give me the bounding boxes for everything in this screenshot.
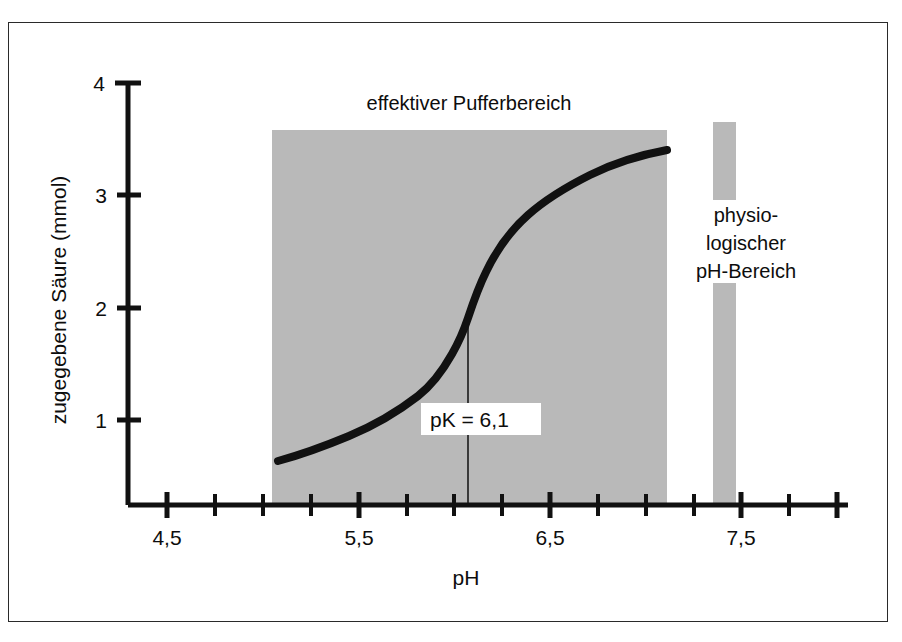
y-tick-label-1: 1 — [95, 409, 107, 432]
x-tick-label-7-5: 7,5 — [726, 526, 755, 549]
figure-page: 4 3 2 1 zugegebene Säure (mmol) 4,5 5,5 — [0, 0, 902, 642]
physiological-range-band-lower — [713, 283, 736, 505]
pk-label-text: pK = 6,1 — [430, 408, 509, 431]
y-tick-label-3: 3 — [95, 184, 107, 207]
x-tick-label-5-5: 5,5 — [344, 526, 373, 549]
y-tick-label-4: 4 — [93, 72, 105, 95]
x-tick-label-6-5: 6,5 — [535, 526, 564, 549]
y-tick-label-2: 2 — [95, 297, 107, 320]
physiological-range-label-line1: physio- — [714, 204, 778, 226]
ph-titration-chart: 4 3 2 1 zugegebene Säure (mmol) 4,5 5,5 — [0, 0, 902, 642]
buffer-range-label: effektiver Pufferbereich — [367, 92, 572, 114]
physiological-range-label-line3: pH-Bereich — [696, 260, 796, 282]
y-axis-title: zugegebene Säure (mmol) — [47, 176, 70, 425]
x-axis-title: pH — [453, 566, 480, 589]
physiological-range-label-line2: logischer — [706, 232, 786, 254]
physiological-range-band-upper — [713, 122, 736, 200]
x-tick-label-4-5: 4,5 — [152, 526, 181, 549]
